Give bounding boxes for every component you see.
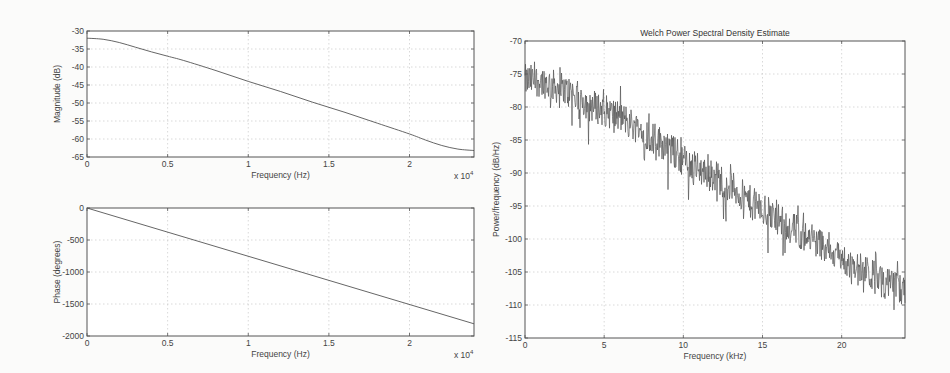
x-exponent-label: x 104 <box>454 349 474 360</box>
y-tick-label: -55 <box>72 116 85 126</box>
y-tick-label: -1500 <box>62 299 84 309</box>
y-tick-label: -50 <box>72 98 85 108</box>
x-tick-label: 2 <box>407 338 412 348</box>
y-tick-label: -35 <box>72 44 85 54</box>
x-tick-label: 15 <box>758 340 768 350</box>
y-tick-label: -115 <box>506 333 523 343</box>
y-axis-label: Power/frequency (dB/Hz) <box>491 142 501 237</box>
y-tick-label: -95 <box>510 201 523 211</box>
y-tick-label: -60 <box>72 134 85 144</box>
x-tick-label: 10 <box>679 340 689 350</box>
x-axis-label: Frequency (kHz) <box>684 351 747 361</box>
y-tick-label: -105 <box>505 267 522 277</box>
y-tick-label: -110 <box>506 300 523 310</box>
x-axis-label: Frequency (Hz) <box>251 349 310 359</box>
x-tick-label: 2 <box>407 159 412 169</box>
y-tick-label: -80 <box>510 102 523 112</box>
x-tick-label: 0 <box>85 338 90 348</box>
y-tick-label: -100 <box>505 234 522 244</box>
y-tick-label: -500 <box>67 235 84 245</box>
x-tick-label: 0.5 <box>162 338 174 348</box>
y-tick-label: -70 <box>510 36 523 46</box>
phase-plot: 00.511.520-500-1000-1500-2000Frequency (… <box>52 203 474 360</box>
x-tick-label: 0 <box>85 159 90 169</box>
y-tick-label: -30 <box>72 26 85 36</box>
y-tick-label: -85 <box>510 135 523 145</box>
y-tick-label: -2000 <box>62 331 84 341</box>
psd-plot: 05101520-70-75-80-85-90-95-100-105-110-1… <box>491 28 905 361</box>
x-tick-label: 1 <box>246 338 251 348</box>
magnitude-plot: 00.511.52-30-35-40-45-50-55-60-65Frequen… <box>52 26 474 181</box>
x-axis-label: Frequency (Hz) <box>251 170 310 180</box>
chart-title: Welch Power Spectral Density Estimate <box>640 28 790 38</box>
y-tick-label: -65 <box>72 152 85 162</box>
y-tick-label: 0 <box>79 203 84 213</box>
x-tick-label: 20 <box>837 340 847 350</box>
y-tick-label: -90 <box>510 168 523 178</box>
y-axis-label: Phase (degrees) <box>52 240 62 303</box>
x-tick-label: 0 <box>523 340 528 350</box>
y-tick-label: -40 <box>72 62 85 72</box>
y-tick-label: -1000 <box>62 267 84 277</box>
x-exponent-label: x 104 <box>454 170 474 181</box>
x-tick-label: 1.5 <box>323 338 335 348</box>
x-tick-label: 5 <box>602 340 607 350</box>
y-tick-label: -75 <box>510 69 523 79</box>
x-tick-label: 1 <box>246 159 251 169</box>
figure-canvas: 00.511.52-30-35-40-45-50-55-60-65Frequen… <box>0 0 950 373</box>
x-tick-label: 1.5 <box>323 159 335 169</box>
y-axis-label: Magnitude (dB) <box>52 65 62 123</box>
x-tick-label: 0.5 <box>162 159 174 169</box>
y-tick-label: -45 <box>72 80 85 90</box>
